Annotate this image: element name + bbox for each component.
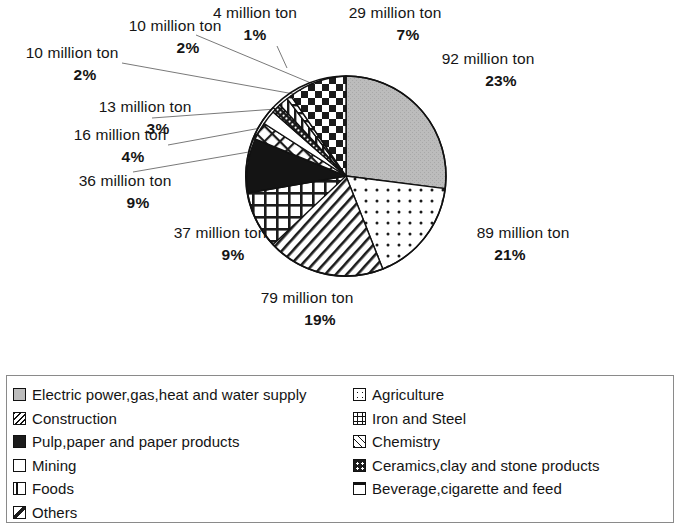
- slice-label-37: 37 million ton 9%: [145, 222, 295, 266]
- slice-label-29: 29 million ton 7%: [320, 2, 470, 46]
- legend-swatch-diamond: [353, 435, 366, 448]
- legend-item-mining[interactable]: Mining: [13, 457, 353, 474]
- chart-page: 4 million ton 1% 29 million ton 7% 92 mi…: [0, 0, 685, 531]
- legend-swatch-grid: [353, 412, 366, 425]
- legend-item-chemistry[interactable]: Chemistry: [353, 433, 440, 450]
- pie-slice-electric-power[interactable]: [346, 76, 446, 189]
- legend-swatch-dots: [353, 388, 366, 401]
- slice-label-89-value: 89 million ton: [448, 222, 598, 244]
- legend-swatch-white: [13, 459, 26, 472]
- slice-label-92: 92 million ton 23%: [413, 48, 563, 92]
- slice-label-79: 79 million ton 19%: [232, 287, 382, 331]
- legend-item-others[interactable]: Others: [13, 504, 353, 521]
- legend-swatch-diagonal: [13, 412, 26, 425]
- slice-label-36: 36 million ton 9%: [50, 170, 200, 214]
- legend-swatch-solid-black: [13, 435, 26, 448]
- slice-label-10-ceramics-percent: 2%: [0, 64, 147, 86]
- slice-label-13-value: 13 million ton: [70, 96, 220, 118]
- legend-item-beverage[interactable]: Beverage,cigarette and feed: [353, 480, 562, 497]
- legend-item-foods[interactable]: Foods: [13, 480, 353, 497]
- legend-swatch-speckle: [13, 506, 26, 519]
- legend-item-iron-and-steel[interactable]: Iron and Steel: [353, 410, 466, 427]
- slice-label-89-percent: 21%: [448, 244, 598, 266]
- legend-label-construction: Construction: [32, 410, 117, 427]
- chart-legend: Electric power,gas,heat and water supply…: [6, 375, 674, 523]
- legend-label-others: Others: [32, 504, 77, 521]
- slice-label-16: 16 million ton 4%: [45, 124, 195, 168]
- legend-label-pulp-paper: Pulp,paper and paper products: [32, 433, 239, 450]
- legend-row: Pulp,paper and paper products Chemistry: [13, 430, 673, 454]
- legend-row: Electric power,gas,heat and water supply…: [13, 383, 673, 407]
- slice-label-36-value: 36 million ton: [50, 170, 200, 192]
- legend-label-foods: Foods: [32, 480, 74, 497]
- legend-item-electric-power[interactable]: Electric power,gas,heat and water supply: [13, 386, 353, 403]
- slice-label-89: 89 million ton 21%: [448, 222, 598, 266]
- legend-row: Foods Beverage,cigarette and feed: [13, 477, 673, 501]
- legend-swatch-beverage: [353, 482, 366, 495]
- slice-label-16-value: 16 million ton: [45, 124, 195, 146]
- legend-swatch-ceramics: [353, 459, 366, 472]
- legend-item-pulp-paper[interactable]: Pulp,paper and paper products: [13, 433, 353, 450]
- legend-label-agriculture: Agriculture: [372, 386, 444, 403]
- legend-row: Construction Iron and Steel: [13, 407, 673, 431]
- legend-swatch-vertical: [13, 482, 26, 495]
- slice-label-79-percent: 19%: [232, 309, 382, 331]
- slice-label-92-value: 92 million ton: [413, 48, 563, 70]
- slice-label-79-value: 79 million ton: [232, 287, 382, 309]
- legend-row: Mining Ceramics,clay and stone products: [13, 454, 673, 478]
- legend-swatch-solid-gray: [13, 388, 26, 401]
- legend-label-ceramics: Ceramics,clay and stone products: [372, 457, 600, 474]
- slice-label-29-percent: 7%: [320, 24, 470, 46]
- legend-label-beverage: Beverage,cigarette and feed: [372, 480, 562, 497]
- slice-label-37-percent: 9%: [145, 244, 295, 266]
- slice-label-37-value: 37 million ton: [145, 222, 295, 244]
- slice-label-10-ceramics: 10 million ton 2%: [0, 42, 147, 86]
- legend-label-mining: Mining: [32, 457, 77, 474]
- slice-label-10-ceramics-value: 10 million ton: [0, 42, 147, 64]
- leader-line-10a: [122, 63, 305, 96]
- legend-row: Others: [13, 501, 673, 525]
- slice-label-92-percent: 23%: [413, 70, 563, 92]
- legend-label-chemistry: Chemistry: [372, 433, 440, 450]
- legend-label-iron-and-steel: Iron and Steel: [372, 410, 466, 427]
- legend-item-ceramics[interactable]: Ceramics,clay and stone products: [353, 457, 600, 474]
- legend-item-construction[interactable]: Construction: [13, 410, 353, 427]
- slice-label-10-foods-value: 10 million ton: [100, 15, 250, 37]
- legend-label-electric-power: Electric power,gas,heat and water supply: [32, 386, 307, 403]
- leader-line-29-stub: [277, 46, 287, 68]
- slice-label-29-value: 29 million ton: [320, 2, 470, 24]
- slice-label-16-percent: 4%: [45, 146, 195, 168]
- legend-item-agriculture[interactable]: Agriculture: [353, 386, 444, 403]
- slice-label-36-percent: 9%: [50, 192, 200, 214]
